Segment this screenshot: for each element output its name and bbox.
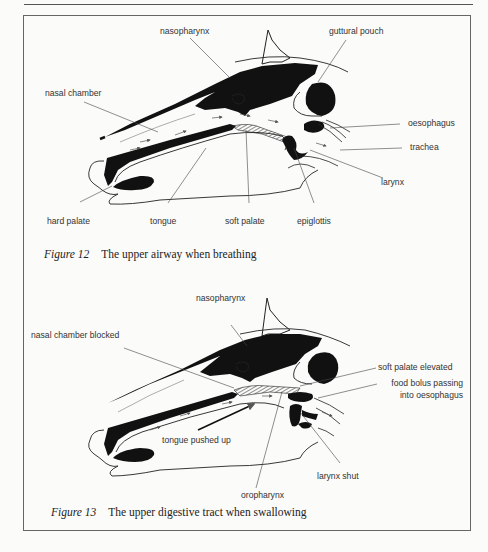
figure-12-drawing	[80, 30, 402, 204]
figure-13-title: The upper digestive tract when swallowin…	[108, 506, 306, 518]
horse-head-cross-section-illustrations	[0, 0, 488, 552]
label-nasopharynx: nasopharynx	[160, 27, 209, 36]
label-oesophagus: oesophagus	[408, 119, 455, 128]
label-food-bolus-line2: into oesophagus	[379, 391, 463, 400]
figure-12-number: Figure 12	[44, 248, 89, 260]
label-tongue-pushed-up: tongue pushed up	[162, 436, 231, 445]
figure-13-caption: Figure 13The upper digestive tract when …	[51, 506, 307, 518]
label-oropharynx: oropharynx	[241, 491, 284, 500]
label-tongue: tongue	[150, 217, 176, 226]
label-soft-palate-elevated: soft palate elevated	[378, 363, 453, 372]
label-nasal-chamber-blocked: nasal chamber blocked	[31, 331, 119, 340]
label-larynx-shut: larynx shut	[317, 472, 359, 481]
label-epiglottis: epiglottis	[297, 217, 331, 226]
label-guttural-pouch: guttural pouch	[329, 27, 383, 36]
figure-13-number: Figure 13	[51, 506, 96, 518]
label-food-bolus: food bolus passing into oesophagus	[379, 379, 463, 399]
label-hard-palate: hard palate	[47, 217, 90, 226]
figure-13-drawing	[89, 298, 377, 488]
label-food-bolus-line1: food bolus passing	[379, 379, 463, 388]
figure-12-title: The upper airway when breathing	[101, 248, 256, 260]
figure-12-caption: Figure 12The upper airway when breathing	[44, 248, 256, 260]
label-larynx: larynx	[381, 178, 404, 187]
label-nasal-chamber: nasal chamber	[45, 89, 101, 98]
label-nasopharynx-13: nasopharynx	[196, 294, 245, 303]
label-soft-palate: soft palate	[225, 217, 265, 226]
label-trachea: trachea	[410, 143, 439, 152]
